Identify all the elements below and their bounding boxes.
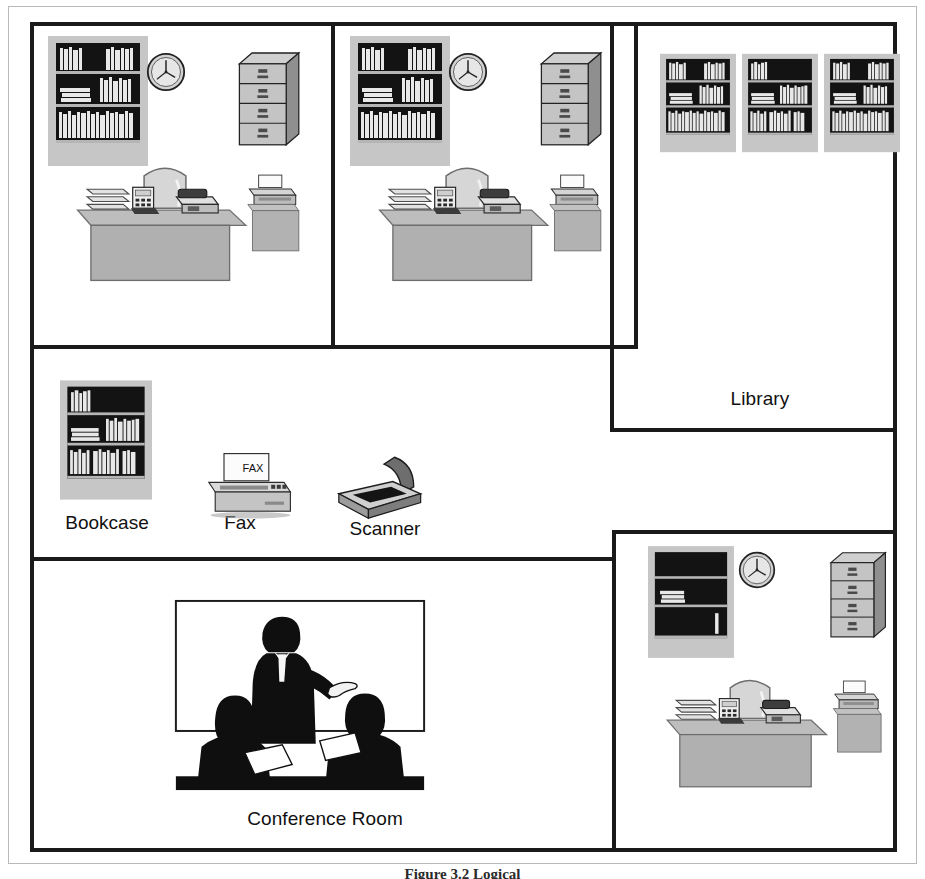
wall-library-bottom xyxy=(610,428,897,432)
wall-library-left xyxy=(610,22,614,432)
library-bookcase-3 xyxy=(824,48,900,158)
wall-conference-left xyxy=(30,557,34,852)
office3-bookcase xyxy=(648,544,734,660)
open-area-bookcase xyxy=(60,380,152,500)
office2-bookcase xyxy=(350,36,450,166)
floorplan-canvas: Library Conference Room Bookcase Fax Sca… xyxy=(0,0,925,879)
conference-presentation-icon xyxy=(170,597,430,794)
office1-desk xyxy=(70,155,260,288)
office2-clock-icon xyxy=(448,52,488,92)
wall-office3-top xyxy=(612,530,897,534)
equipment-label-bookcase: Bookcase xyxy=(52,512,162,534)
figure-caption: Figure 3.2 Logical xyxy=(0,866,925,879)
wall-conference-top xyxy=(30,557,616,561)
wall-open-area-left xyxy=(30,345,34,557)
open-area-scanner xyxy=(330,452,426,526)
office2-printer xyxy=(542,172,604,257)
wall-office3-left xyxy=(612,530,616,852)
office1-file-cabinet xyxy=(234,44,306,152)
room-label-library: Library xyxy=(700,388,820,410)
wall-conference-bottom xyxy=(30,848,616,852)
wall-left-office1 xyxy=(30,22,34,349)
office1-bookcase xyxy=(48,36,148,166)
office3-printer xyxy=(826,678,884,758)
wall-divider-office1-office2 xyxy=(331,22,335,349)
office1-printer xyxy=(240,172,302,257)
wall-bottom-offices xyxy=(30,345,638,349)
wall-right-office2 xyxy=(634,22,638,349)
office2-desk xyxy=(372,155,562,288)
library-bookcase-1 xyxy=(660,48,736,158)
wall-office3-bottom xyxy=(612,848,897,852)
office2-file-cabinet xyxy=(536,44,608,152)
fax-paper-label: FAX xyxy=(228,462,278,474)
office3-clock-icon xyxy=(738,551,776,589)
office3-desk xyxy=(660,668,840,794)
wall-library-top xyxy=(610,22,897,26)
room-label-conference-room: Conference Room xyxy=(200,808,450,830)
office3-file-cabinet xyxy=(826,544,892,644)
library-bookcase-2 xyxy=(742,48,818,158)
office1-clock-icon xyxy=(146,52,186,92)
